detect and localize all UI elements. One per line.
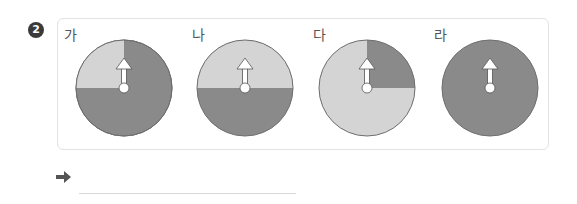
right-arrow-icon bbox=[56, 171, 72, 183]
spinner-na bbox=[195, 38, 295, 138]
problem-number-badge: 2 bbox=[28, 22, 44, 38]
spinner-da bbox=[317, 38, 417, 138]
spinner-ra bbox=[440, 38, 540, 138]
spinner-ga bbox=[74, 38, 174, 138]
answer-blank-line[interactable] bbox=[79, 193, 296, 194]
